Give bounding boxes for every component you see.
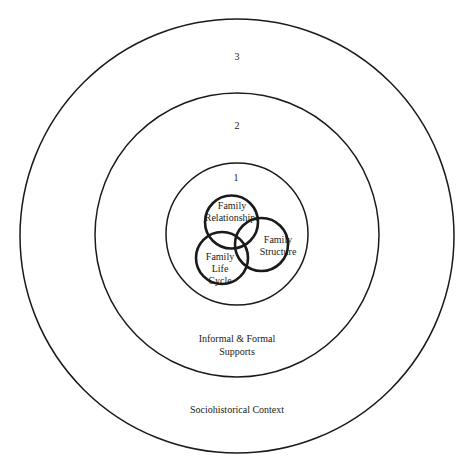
family-life-cycle-label-line1: Family bbox=[200, 251, 240, 263]
sociohistorical-context-label: Sociohistorical Context bbox=[177, 404, 297, 416]
supports-label-line1: Informal & Formal bbox=[187, 333, 287, 345]
family-relationships-label-line2: Relationships bbox=[200, 212, 264, 224]
ring-1-number: 1 bbox=[226, 172, 246, 184]
family-relationships-label-line1: Family bbox=[200, 200, 264, 212]
family-structure-label-line1: Family bbox=[253, 234, 303, 246]
supports-label-line2: Supports bbox=[187, 346, 287, 358]
ring-3-number: 3 bbox=[227, 51, 247, 63]
ring-2-number: 2 bbox=[227, 120, 247, 132]
family-life-cycle-label-line3: Cycle bbox=[200, 275, 240, 287]
diagram-canvas bbox=[0, 0, 472, 469]
family-structure-label-line2: Structure bbox=[253, 246, 303, 258]
family-life-cycle-label-line2: Life bbox=[200, 263, 240, 275]
